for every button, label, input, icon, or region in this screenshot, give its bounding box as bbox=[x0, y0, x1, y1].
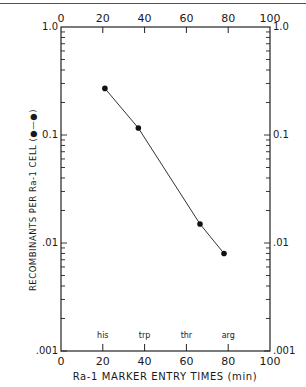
y-tick-label-left: 1.0 bbox=[42, 21, 58, 32]
x-tick-label-bottom: 60 bbox=[179, 355, 193, 368]
marker-label-trp: trp bbox=[139, 331, 151, 340]
y-tick-label-right: .001 bbox=[273, 345, 295, 356]
y-axis-title: RECOMBINANTS PER Ra-1 CELL (●—●) bbox=[28, 109, 38, 291]
x-tick-label-top: 20 bbox=[96, 12, 110, 25]
data-point-arg bbox=[221, 251, 227, 257]
x-tick-label-top: 80 bbox=[221, 12, 235, 25]
x-tick-label-bottom: 80 bbox=[221, 355, 235, 368]
marker-label-thr: thr bbox=[181, 331, 193, 340]
marker-label-his: his bbox=[97, 331, 108, 340]
x-tick-label-top: 0 bbox=[58, 12, 65, 25]
series-line bbox=[105, 88, 224, 253]
y-tick-label-right: .01 bbox=[273, 237, 289, 248]
plot-frame bbox=[61, 27, 270, 351]
y-tick-label-right: 1.0 bbox=[273, 21, 289, 32]
x-axis-title: Ra-1 MARKER ENTRY TIMES (min) bbox=[73, 371, 258, 382]
chart: 0020204040606080801001001.01.00.10.1.01.… bbox=[0, 0, 306, 387]
y-tick-label-left: .001 bbox=[36, 345, 58, 356]
plot-border bbox=[61, 27, 270, 351]
y-tick-label-left: 0.1 bbox=[42, 129, 58, 140]
data-point-thr bbox=[197, 221, 203, 227]
data-point-his bbox=[102, 86, 108, 92]
x-tick-label-bottom: 0 bbox=[58, 355, 65, 368]
tick-labels: 0020204040606080801001001.01.00.10.1.01.… bbox=[36, 12, 296, 368]
x-tick-label-top: 60 bbox=[179, 12, 193, 25]
data-series bbox=[102, 86, 227, 257]
marker-labels: histrpthrarg bbox=[97, 331, 235, 340]
marker-label-arg: arg bbox=[222, 331, 235, 340]
axis-ticks bbox=[61, 27, 270, 351]
x-tick-label-top: 40 bbox=[138, 12, 152, 25]
x-tick-label-bottom: 20 bbox=[96, 355, 110, 368]
y-tick-label-right: 0.1 bbox=[273, 129, 289, 140]
data-point-trp bbox=[136, 125, 142, 131]
y-tick-label-left: .01 bbox=[42, 237, 58, 248]
x-tick-label-bottom: 100 bbox=[260, 355, 281, 368]
y-axis-title-text: RECOMBINANTS PER Ra-1 CELL (●—●) bbox=[28, 109, 38, 291]
x-tick-label-bottom: 40 bbox=[138, 355, 152, 368]
